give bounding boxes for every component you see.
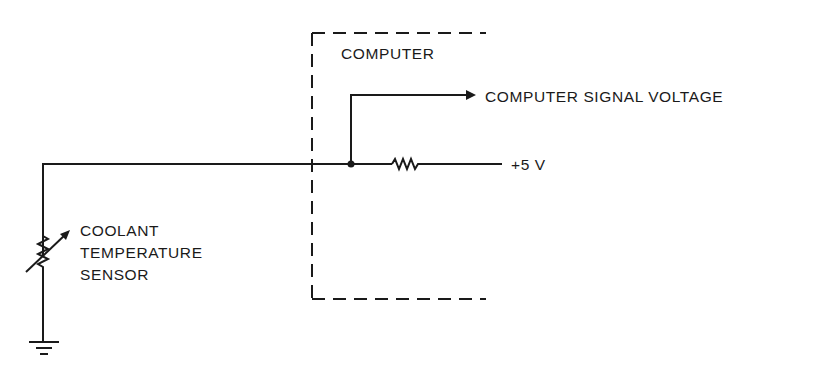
sensor-label-line-1: COOLANT	[80, 221, 159, 240]
signal-voltage-label: COMPUTER SIGNAL VOLTAGE	[485, 87, 723, 106]
signal-arrow-icon	[466, 90, 476, 100]
signal-wire	[351, 95, 466, 164]
supply-voltage-label: +5 V	[511, 155, 546, 174]
ground-icon	[29, 342, 59, 354]
pullup-resistor-icon	[392, 159, 502, 169]
junction-dot	[348, 161, 355, 168]
computer-boundary	[312, 33, 486, 299]
sensor-label-line-2: TEMPERATURE	[80, 243, 203, 262]
computer-label: COMPUTER	[341, 44, 435, 63]
sensor-label-line-3: SENSOR	[80, 265, 149, 284]
